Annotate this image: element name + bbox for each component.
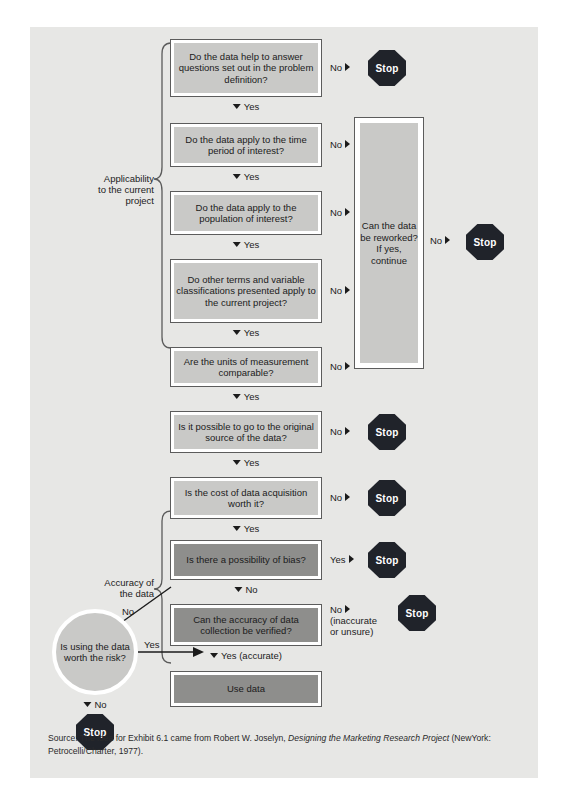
stop-label: Stop (473, 237, 496, 248)
node-q6[interactable]: Is it possible to go to the original sou… (170, 411, 322, 453)
edge-label-no-q5: No (330, 361, 350, 372)
stop-label: Stop (375, 427, 398, 438)
node-q7[interactable]: Is the cost of data acquisition worth it… (170, 477, 322, 519)
group-label-applicability-line3: project (58, 195, 154, 206)
source-prefix: Source: The idea for Exhibit 6.1 came fr… (48, 733, 288, 743)
arrow-down-icon (83, 702, 91, 707)
node-rework-label: Can the data be reworked? If yes, contin… (360, 123, 418, 363)
node-q5[interactable]: Are the units of measurement comparable? (170, 347, 322, 387)
node-q9-label: Can the accuracy of data collection be v… (174, 608, 318, 642)
flow-label-yes-accurate: Yes (accurate) (210, 650, 282, 661)
edge-label-no-rework: No (430, 235, 450, 246)
group-label-applicability-line2: to the current (58, 184, 154, 195)
source-title: Designing the Marketing Research Project (288, 733, 449, 743)
flow-label-yes-5: Yes (233, 391, 260, 402)
node-q8[interactable]: Is there a possibility of bias? (170, 540, 322, 580)
node-q6-label: Is it possible to go to the original sou… (174, 415, 318, 449)
flow-label-no-circle: No (83, 699, 106, 710)
arrow-right-icon (345, 286, 350, 294)
flow-label-yes-7: Yes (233, 523, 260, 534)
arrow-down-icon (233, 394, 241, 399)
node-use-data-label: Use data (174, 675, 318, 703)
arrow-down-icon (233, 526, 241, 531)
edge-label-yes-diagonal: Yes (144, 639, 160, 650)
stop-node-q7[interactable]: Stop (368, 480, 406, 516)
edge-label-no-q3: No (330, 207, 350, 218)
arrow-down-icon (233, 242, 241, 247)
stop-label: Stop (405, 608, 428, 619)
exhibit-panel: Applicability to the current project Acc… (30, 27, 538, 778)
arrow-right-icon (345, 208, 350, 216)
edge-label-no-inaccurate: No (inaccurate or unsure) (330, 604, 392, 637)
stop-label: Stop (375, 63, 398, 74)
arrow-right-icon (345, 362, 350, 370)
edge-label-no-diagonal: No (122, 606, 134, 617)
node-q8-label: Is there a possibility of bias? (174, 544, 318, 576)
arrow-right-icon (345, 427, 350, 435)
stop-label: Stop (375, 493, 398, 504)
edge-label-no-inaccurate-line3: or unsure) (330, 626, 392, 637)
node-rework[interactable]: Can the data be reworked? If yes, contin… (354, 117, 424, 369)
stop-node-rework[interactable]: Stop (466, 224, 504, 260)
edge-label-no-q6: No (330, 426, 350, 437)
arrow-down-icon (233, 330, 241, 335)
node-q7-label: Is the cost of data acquisition worth it… (174, 481, 318, 515)
group-label-applicability-line1: Applicability (58, 173, 154, 184)
stop-label: Stop (375, 555, 398, 566)
edge-label-no-q4: No (330, 285, 350, 296)
edge-label-yes-q8: Yes (330, 554, 354, 565)
arrow-down-icon (234, 587, 242, 592)
edge-label-no-inaccurate-line2: (inaccurate (330, 615, 392, 626)
brace-applicability (154, 43, 171, 348)
group-label-applicability: Applicability to the current project (58, 173, 154, 206)
arrow-right-icon (345, 140, 350, 148)
node-q2-label: Do the data apply to the time period of … (174, 127, 318, 163)
node-worth-the-risk[interactable]: Is using the data worth the risk? (52, 609, 138, 695)
edge-yes-circle-to-usedata-arrowhead (193, 647, 204, 657)
arrow-right-icon (345, 605, 350, 613)
arrow-right-icon (345, 63, 350, 71)
node-q4[interactable]: Do other terms and variable classificati… (170, 259, 322, 323)
stop-node-q1[interactable]: Stop (368, 50, 406, 86)
flow-label-yes-4: Yes (233, 327, 260, 338)
node-q3[interactable]: Do the data apply to the population of i… (170, 191, 322, 235)
arrow-down-icon (233, 104, 241, 109)
node-q2[interactable]: Do the data apply to the time period of … (170, 123, 322, 167)
edge-label-no-inaccurate-line1: No (330, 604, 392, 615)
stop-node-q6[interactable]: Stop (368, 414, 406, 450)
group-label-accuracy-line1: Accuracy of (58, 577, 154, 588)
arrow-down-icon (233, 460, 241, 465)
stop-node-q8[interactable]: Stop (368, 542, 406, 578)
arrow-down-icon (233, 174, 241, 179)
flow-label-no-1: No (234, 584, 257, 595)
node-q9[interactable]: Can the accuracy of data collection be v… (170, 604, 322, 646)
source-note: Source: The idea for Exhibit 6.1 came fr… (48, 732, 522, 758)
arrow-right-icon (445, 236, 450, 244)
node-worth-the-risk-label: Is using the data worth the risk? (56, 641, 134, 664)
arrow-right-icon (349, 555, 354, 563)
flow-label-yes-6: Yes (233, 457, 260, 468)
arrow-right-icon (345, 493, 350, 501)
flow-label-yes-3: Yes (233, 239, 260, 250)
group-label-accuracy: Accuracy of the data (58, 577, 154, 599)
edge-label-no-q2: No (330, 139, 350, 150)
edge-label-no-q1: No (330, 62, 350, 73)
node-q4-label: Do other terms and variable classificati… (174, 263, 318, 319)
arrow-down-icon (210, 653, 218, 658)
node-q1[interactable]: Do the data help to answer questions set… (170, 39, 322, 97)
node-q3-label: Do the data apply to the population of i… (174, 195, 318, 231)
node-q5-label: Are the units of measurement comparable? (174, 351, 318, 383)
node-q1-label: Do the data help to answer questions set… (174, 43, 318, 93)
group-label-accuracy-line2: the data (58, 588, 154, 599)
node-use-data[interactable]: Use data (170, 671, 322, 707)
flow-label-yes-1: Yes (233, 101, 260, 112)
stop-node-q9[interactable]: Stop (398, 595, 436, 631)
edge-label-no-q7: No (330, 492, 350, 503)
flowchart-stage: Applicability to the current project Acc… (30, 27, 538, 727)
flow-label-yes-2: Yes (233, 171, 260, 182)
